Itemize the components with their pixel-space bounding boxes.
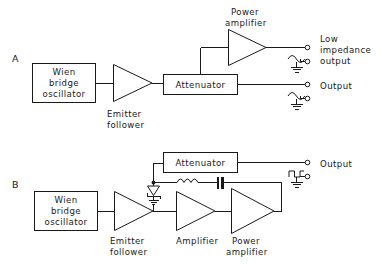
panel-a-wien-bridge-oscillator-block: Wien bridge oscillator — [33, 64, 96, 103]
panel-a-low-impedance-output-terminals: Low impedance output — [266, 34, 371, 72]
panel-a: A Wien bridge oscillator Emitter followe… — [12, 7, 371, 130]
panel-a-oscillator-label-line2: bridge — [49, 78, 79, 88]
circuit-block-diagram-figure: A Wien bridge oscillator Emitter followe… — [0, 0, 382, 266]
panel-b-emitter-follower-triangle — [115, 192, 154, 231]
panel-b: B Wien bridge oscillator Emitter followe… — [12, 153, 352, 258]
panel-b-emitter-follower-label-line1: Emitter — [110, 236, 145, 246]
panel-b-attenuator-label: Attenuator — [175, 158, 225, 168]
panel-b-attenuator-block: Attenuator — [164, 153, 238, 173]
panel-a-lowz-label-line1: Low — [320, 34, 338, 44]
panel-b-label: B — [12, 179, 19, 190]
panel-a-emitter-follower-label-line2: follower — [107, 120, 144, 130]
panel-b-oscillator-label-line1: Wien — [54, 195, 77, 205]
panel-a-attenuator-block: Attenuator — [164, 75, 238, 95]
panel-a-lowz-ground-icon — [291, 62, 303, 73]
panel-a-lowz-label-line3: output — [320, 56, 351, 66]
panel-a-lowz-hot-terminal — [305, 45, 310, 50]
panel-a-power-amplifier-triangle — [229, 30, 267, 66]
panel-a-oscillator-label-line1: Wien — [52, 67, 75, 77]
panel-a-emitter-follower-block — [114, 65, 153, 102]
panel-b-power-amplifier-label-line2: amplifier — [226, 247, 268, 257]
panel-a-out-label-line1: Output — [320, 81, 352, 91]
panel-b-wien-bridge-oscillator-block: Wien bridge oscillator — [35, 192, 98, 231]
panel-a-label: A — [12, 53, 19, 64]
panel-b-power-amplifier-triangle — [232, 189, 275, 234]
panel-a-out-ground-icon — [291, 99, 303, 110]
panel-a-power-amplifier-label-line1: Power — [231, 7, 259, 17]
panel-a-lowz-label-line2: impedance — [320, 45, 371, 55]
panel-a-emitter-follower-label-line1: Emitter — [107, 109, 142, 119]
panel-a-output-terminals: Output — [238, 81, 353, 109]
panel-b-zener-diode-branch — [147, 182, 160, 211]
panel-a-power-amplifier-block — [229, 30, 267, 66]
panel-b-zener-diode-icon — [148, 186, 160, 196]
panel-b-inductor-coils — [177, 179, 198, 183]
panel-b-inductor-icon — [177, 179, 198, 183]
schematic-svg: A Wien bridge oscillator Emitter followe… — [0, 0, 382, 266]
panel-a-oscillator-label-line3: oscillator — [42, 89, 85, 99]
panel-b-capacitor-icon — [218, 177, 223, 189]
panel-b-oscillator-label-line2: bridge — [51, 206, 81, 216]
panel-b-power-amplifier-label-line1: Power — [232, 236, 260, 246]
panel-b-emitter-follower-label-line2: follower — [110, 247, 147, 257]
panel-b-out-cold-terminal — [305, 174, 310, 179]
panel-a-out-cold-terminal — [305, 96, 310, 101]
panel-a-out-hot-terminal — [305, 82, 310, 87]
panel-a-emitter-follower-triangle — [114, 65, 153, 102]
panel-b-oscillator-label-line3: oscillator — [44, 217, 87, 227]
panel-a-attenuator-label: Attenuator — [175, 80, 225, 90]
panel-a-power-amplifier-label-line2: amplifier — [225, 18, 267, 28]
panel-b-out-hot-terminal — [305, 160, 310, 165]
panel-b-amplifier-triangle — [177, 192, 216, 231]
panel-b-amplifier-label: Amplifier — [176, 236, 218, 246]
panel-b-out-ground-icon — [291, 177, 303, 188]
panel-b-out-label-line1: Output — [320, 159, 352, 169]
panel-a-lowz-cold-terminal — [305, 59, 310, 64]
